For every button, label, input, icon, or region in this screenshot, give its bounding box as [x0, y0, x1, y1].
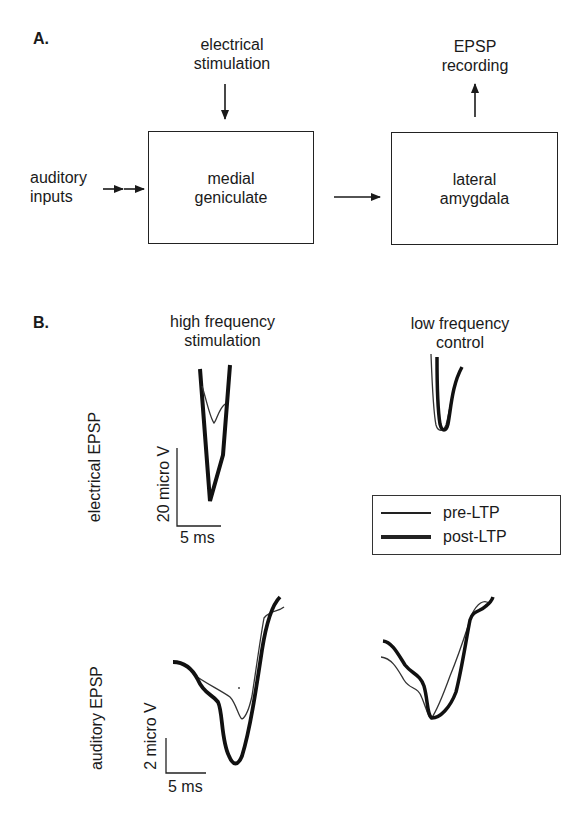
trace-electrical-low-post: [437, 357, 462, 430]
legend-pre-label: pre-LTP: [443, 504, 500, 522]
row-electrical-epsp-label: electrical EPSP: [86, 392, 104, 542]
col2-line2: control: [400, 333, 520, 352]
scale-auditory-vertical-label: 2 micro V: [142, 700, 160, 772]
scale-auditory-horizontal-label: 5 ms: [168, 777, 203, 796]
row-auditory-epsp-label: auditory EPSP: [88, 658, 106, 778]
col1-line2: stimulation: [150, 331, 295, 350]
scale-electrical-vertical-label: 20 micro V: [155, 439, 173, 529]
legend-item-post: post-LTP: [381, 528, 507, 546]
thick-line-icon: [381, 535, 431, 539]
scale-bar-auditory: [166, 738, 206, 773]
legend: pre-LTP post-LTP: [372, 495, 561, 555]
trace-auditory-high-pre: [193, 607, 284, 719]
trace-auditory-low-post: [383, 597, 493, 718]
trace-auditory-low-pre: [381, 602, 490, 719]
legend-post-label: post-LTP: [443, 528, 507, 546]
col1-line1: high frequency: [150, 312, 295, 331]
scale-electrical-horizontal-label: 5 ms: [180, 528, 215, 547]
trace-electrical-high-post: [200, 365, 230, 501]
col2-line1: low frequency: [400, 314, 520, 333]
column-high-frequency-label: high frequency stimulation: [150, 312, 295, 350]
legend-item-pre: pre-LTP: [381, 504, 500, 522]
column-low-frequency-label: low frequency control: [400, 314, 520, 352]
thin-line-icon: [381, 512, 431, 513]
panel-b-label: B.: [33, 314, 49, 332]
